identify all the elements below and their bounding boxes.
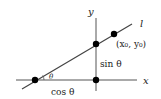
diagram-canvas: y x l (x₀, y₀) sin θ cos θ θ <box>0 0 161 99</box>
point-label: (x₀, y₀) <box>116 39 146 49</box>
dot-line-x-intercept <box>32 77 38 83</box>
dot-line-y-intercept <box>93 41 99 47</box>
cos-label: cos θ <box>51 87 74 97</box>
line-l-label: l <box>140 18 143 29</box>
dot-point-x0-y0 <box>111 31 117 37</box>
sin-label: sin θ <box>100 59 122 69</box>
x-axis-label: x <box>143 75 149 86</box>
y-axis-label: y <box>87 6 94 17</box>
dot-origin <box>93 77 99 83</box>
